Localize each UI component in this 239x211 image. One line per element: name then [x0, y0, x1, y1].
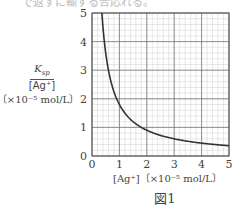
svg-text:4: 4: [80, 36, 87, 49]
y-label-unit: 〔×10⁻⁵ mol/L〕: [0, 94, 82, 106]
x-axis-label: [Ag⁺]〔×10⁻⁵ mol/L〕: [100, 170, 235, 185]
svg-text:5: 5: [80, 7, 87, 20]
figure-caption: 図1: [145, 188, 185, 207]
svg-text:0: 0: [89, 158, 96, 171]
svg-text:0: 0: [80, 150, 87, 163]
svg-text:1: 1: [80, 121, 87, 134]
y-label-denominator: [Ag⁺]: [2, 80, 82, 92]
y-axis-label: Ksp [Ag⁺] 〔×10⁻⁵ mol/L〕: [2, 63, 82, 106]
data-curve: [102, 13, 229, 146]
y-label-numerator: Ksp: [30, 63, 54, 80]
